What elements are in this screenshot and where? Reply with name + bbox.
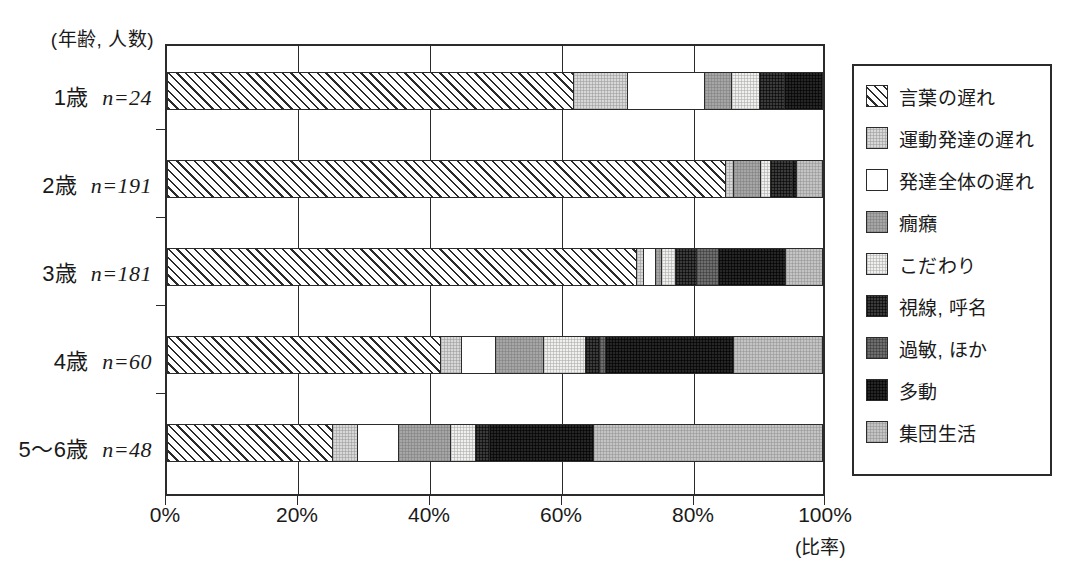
- bar-segment-xlight: [662, 249, 676, 285]
- x-tick-label-20: 20%: [263, 503, 331, 527]
- bar-segment-lgray: [441, 337, 462, 373]
- category-n-1: n=24: [102, 85, 152, 110]
- bar-segment-hatch: [168, 425, 333, 461]
- dgray-swatch: [866, 337, 888, 359]
- bar-segment-white: [644, 249, 656, 285]
- bar-segment-hatch: [168, 249, 637, 285]
- bar-segment-hatch: [168, 73, 574, 109]
- hatch-swatch: [866, 85, 888, 107]
- x-tick-label-40: 40%: [395, 503, 463, 527]
- legend-label-7: 過敏, ほか: [899, 335, 987, 362]
- black-swatch: [866, 379, 888, 401]
- gray2-swatch: [866, 421, 888, 443]
- legend-item-4[interactable]: 癇癪: [866, 201, 1050, 243]
- y-axis-caption: (年齢, 人数): [51, 24, 154, 51]
- x-axis-unit: (比率): [795, 532, 846, 559]
- category-age-5: 5〜6歳: [18, 437, 88, 462]
- category-age-3: 3歳: [42, 261, 77, 286]
- bar-segment-black: [785, 73, 822, 109]
- bar-segment-vdark: [586, 337, 600, 373]
- category-label-1: 1歳 n=24: [54, 79, 152, 111]
- category-label-4: 4歳 n=60: [54, 343, 152, 375]
- bar-segment-white: [628, 73, 705, 109]
- category-label-3: 3歳 n=181: [42, 255, 152, 287]
- bar-segment-white: [358, 425, 399, 461]
- x-tick-label-100: 100%: [786, 503, 864, 527]
- legend-item-8[interactable]: 多動: [866, 369, 1050, 411]
- y-minor-tick-2: [156, 217, 165, 218]
- xlight-swatch: [866, 253, 888, 275]
- x-tick-label-0: 0%: [135, 503, 195, 527]
- bar-segment-xlight: [732, 73, 759, 109]
- legend-label-8: 多動: [899, 377, 938, 404]
- bar-segment-lgray: [333, 425, 359, 461]
- legend-label-4: 癇癪: [899, 209, 938, 236]
- category-age-1: 1歳: [54, 85, 89, 110]
- y-axis-labels: (年齢, 人数) 1歳 n=24 2歳 n=191 3歳 n=181 4歳 n=…: [0, 0, 160, 520]
- x-tick-label-80: 80%: [659, 503, 727, 527]
- bar-segment-lgray: [574, 73, 628, 109]
- bar-segment-black: [606, 337, 735, 373]
- bar-segment-gray2: [594, 425, 822, 461]
- legend-label-1: 言葉の遅れ: [899, 83, 996, 110]
- vdark-swatch: [866, 295, 888, 317]
- bar-segment-hatch: [168, 161, 726, 197]
- bar-segment-mgray: [705, 73, 732, 109]
- category-age-2: 2歳: [42, 173, 77, 198]
- legend-item-7[interactable]: 過敏, ほか: [866, 327, 1050, 369]
- bar-segment-vdark: [760, 73, 786, 109]
- legend-item-9[interactable]: 集団生活: [866, 411, 1050, 453]
- legend-item-2[interactable]: 運動発達の遅れ: [866, 117, 1050, 159]
- stacked-bar-3: [167, 248, 823, 286]
- legend-label-3: 発達全体の遅れ: [899, 167, 1034, 194]
- bar-segment-black: [719, 249, 786, 285]
- plot-area: [165, 44, 825, 496]
- bar-segment-vdark: [771, 161, 793, 197]
- bar-segment-gray2: [797, 161, 822, 197]
- legend-item-5[interactable]: こだわり: [866, 243, 1050, 285]
- bar-segment-xlight: [544, 337, 586, 373]
- category-n-5: n=48: [102, 437, 152, 462]
- bar-segment-white: [462, 337, 497, 373]
- legend-label-9: 集団生活: [899, 419, 976, 446]
- bar-segment-xlight: [451, 425, 476, 461]
- category-n-2: n=191: [91, 173, 152, 198]
- bar-segment-gray2: [734, 337, 822, 373]
- bar-segment-vdark: [676, 249, 698, 285]
- legend-item-6[interactable]: 視線, 呼名: [866, 285, 1050, 327]
- stacked-bar-2: [167, 160, 823, 198]
- legend-label-6: 視線, 呼名: [899, 293, 987, 320]
- legend-item-1[interactable]: 言葉の遅れ: [866, 75, 1050, 117]
- bar-segment-mgray: [399, 425, 451, 461]
- lgray-swatch: [866, 127, 888, 149]
- bar-segment-gray2: [786, 249, 822, 285]
- bar-segment-mgray: [496, 337, 544, 373]
- bar-segment-hatch: [168, 337, 441, 373]
- bar-segment-vdark: [476, 425, 490, 461]
- category-n-4: n=60: [102, 349, 152, 374]
- legend-label-2: 運動発達の遅れ: [899, 125, 1034, 152]
- white-swatch: [866, 169, 888, 191]
- bar-segment-lgray: [726, 161, 734, 197]
- category-n-3: n=181: [91, 261, 152, 286]
- stacked-bar-4: [167, 336, 823, 374]
- category-age-4: 4歳: [54, 349, 89, 374]
- y-minor-tick-3: [156, 305, 165, 306]
- bar-segment-lgray: [637, 249, 644, 285]
- category-label-5: 5〜6歳 n=48: [18, 431, 152, 463]
- y-minor-tick-4: [156, 393, 165, 394]
- bar-segment-black: [490, 425, 594, 461]
- x-tick-label-60: 60%: [527, 503, 595, 527]
- figure-canvas: (年齢, 人数) 1歳 n=24 2歳 n=191 3歳 n=181 4歳 n=…: [0, 0, 1078, 578]
- category-label-2: 2歳 n=191: [42, 167, 152, 199]
- legend-item-3[interactable]: 発達全体の遅れ: [866, 159, 1050, 201]
- mgray-swatch: [866, 211, 888, 233]
- legend-label-5: こだわり: [899, 251, 976, 278]
- stacked-bar-5: [167, 424, 823, 462]
- stacked-bar-1: [167, 72, 823, 110]
- bar-segment-mgray: [734, 161, 761, 197]
- bar-segment-xlight: [761, 161, 771, 197]
- legend-box: 言葉の遅れ運動発達の遅れ発達全体の遅れ癇癪こだわり視線, 呼名過敏, ほか多動集…: [852, 64, 1052, 476]
- y-minor-tick-1: [156, 129, 165, 130]
- bar-segment-dgray: [697, 249, 719, 285]
